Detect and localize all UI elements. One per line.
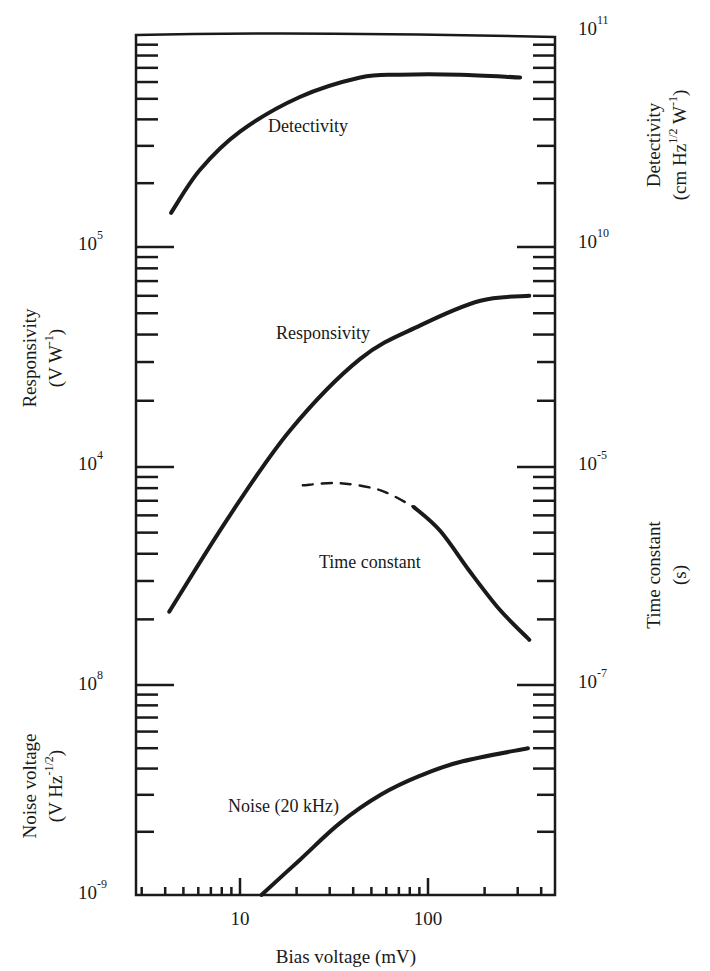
responsivity-title: Responsivity <box>19 308 40 408</box>
detectivity-title: Detectivity <box>643 102 664 187</box>
noise-title: Noise voltage <box>19 733 40 838</box>
time-constant-axis-title: Time constant (s) <box>643 521 691 629</box>
x-tick-label-100: 100 <box>414 908 443 929</box>
y-tick-label-time_constant-0: 10-5 <box>578 448 607 474</box>
data-curves <box>169 74 529 895</box>
y-tick-label-detectivity-1: 1010 <box>578 226 609 252</box>
y-tick-label-noise-0: 108 <box>78 668 103 694</box>
curve-label-responsivity: Responsivity <box>276 323 370 343</box>
curve-label-noise: Noise (20 kHz) <box>228 796 339 817</box>
time-constant-title: Time constant <box>643 521 664 629</box>
curve-time-constant-estimated <box>303 483 414 507</box>
noise-axis-title: Noise voltage (V Hz-1/2) <box>19 733 67 838</box>
plot-frame <box>136 33 555 895</box>
y-tick-label-responsivity-1: 104 <box>78 448 103 474</box>
curve-noise-20-khz <box>261 748 528 895</box>
curve-label-time-constant: Time constant <box>319 552 421 572</box>
y-tick-label-noise-1: 10-9 <box>78 877 107 903</box>
y-tick-label-detectivity-0: 1011 <box>578 13 609 39</box>
curve-time-constant <box>414 507 530 640</box>
multi-panel-log-chart: 10 100 Bias voltage (mV) 101110101051041… <box>0 0 710 971</box>
time-constant-unit: (s) <box>669 565 691 585</box>
detectivity-unit: (cm Hz1/2 W-1) <box>666 90 691 200</box>
x-axis-title: Bias voltage (mV) <box>276 946 416 968</box>
curve-label-detectivity: Detectivity <box>268 116 348 136</box>
detectivity-axis-title: Detectivity (cm Hz1/2 W-1) <box>643 90 691 200</box>
noise-unit: (V Hz-1/2) <box>42 750 67 822</box>
responsivity-axis-title: Responsivity (V W-1) <box>19 308 67 408</box>
x-tick-label-10: 10 <box>231 908 250 929</box>
y-tick-label-time_constant-1: 10-7 <box>578 666 607 692</box>
responsivity-unit: (V W-1) <box>42 329 67 387</box>
curve-detectivity <box>171 74 520 212</box>
y-tick-label-responsivity-0: 105 <box>78 228 103 254</box>
